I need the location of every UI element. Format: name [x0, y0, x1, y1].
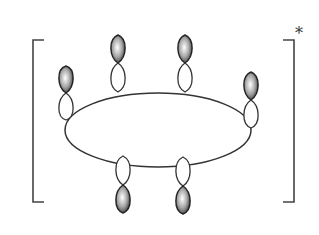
- p-orbital-3: [178, 35, 192, 92]
- excited-state-asterisk: *: [295, 26, 303, 42]
- orbital-ring-diagram: [0, 0, 319, 235]
- ring-ellipse: [65, 93, 251, 167]
- right-bracket: [283, 40, 294, 202]
- left-bracket: [33, 40, 44, 202]
- p-orbital-4: [244, 72, 258, 128]
- p-orbital-5: [116, 156, 130, 213]
- p-orbital-2: [111, 35, 125, 92]
- p-orbital-1: [59, 66, 73, 120]
- p-orbital-6: [176, 157, 190, 214]
